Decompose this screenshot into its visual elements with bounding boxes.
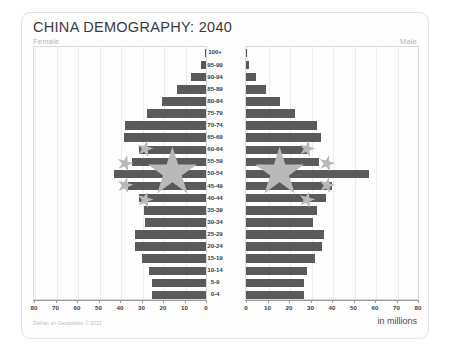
page-title: CHINA DEMOGRAPHY: 2040 — [33, 19, 232, 35]
age-label-80-84: 80-84 — [196, 97, 234, 104]
age-label-65-69: 65-69 — [196, 133, 234, 140]
bar-70-74 — [246, 121, 317, 129]
bar-45-49 — [128, 182, 206, 190]
bar-45-49 — [246, 182, 332, 190]
tick — [34, 300, 35, 303]
tick — [375, 300, 376, 303]
tick-label: 10 — [264, 304, 271, 311]
tick-label: 30 — [138, 304, 145, 311]
age-label-100plus: 100+ — [196, 48, 234, 55]
chart-card: CHINA DEMOGRAPHY: 2040 Female Male 100+9… — [21, 12, 429, 339]
bar-65-69 — [246, 133, 321, 141]
age-label-0-4: 0-4 — [196, 290, 234, 297]
age-label-15-19: 15-19 — [196, 254, 234, 261]
bar-85-89 — [246, 85, 266, 93]
female-value-axis: 80706050403020100 — [33, 300, 207, 316]
tick — [311, 300, 312, 303]
age-label-10-14: 10-14 — [196, 266, 234, 273]
age-label-25-29: 25-29 — [196, 230, 234, 237]
bar-55-59 — [132, 158, 206, 166]
tick — [246, 300, 247, 303]
female-panel — [33, 46, 207, 300]
age-label-45-49: 45-49 — [196, 182, 234, 189]
tick — [142, 300, 143, 303]
units-label: in millions — [377, 316, 417, 326]
bar-5-9 — [246, 279, 304, 287]
age-label-90-94: 90-94 — [196, 73, 234, 80]
age-label-35-39: 35-39 — [196, 206, 234, 213]
bar-25-29 — [246, 230, 324, 238]
tick-label: 60 — [372, 304, 379, 311]
tick-label: 0 — [244, 304, 247, 311]
bar-55-59 — [246, 158, 319, 166]
age-label-75-79: 75-79 — [196, 109, 234, 116]
bar-40-44 — [246, 194, 326, 202]
tick-label: 40 — [117, 304, 124, 311]
age-label-60-64: 60-64 — [196, 145, 234, 152]
bar-50-54 — [246, 170, 369, 178]
tick-label: 80 — [415, 304, 422, 311]
age-label-85-89: 85-89 — [196, 85, 234, 92]
age-label-95-99: 95-99 — [196, 61, 234, 68]
age-label-5-9: 5-9 — [196, 278, 234, 285]
tick-label: 0 — [204, 304, 207, 311]
tick — [418, 300, 419, 303]
age-label-50-54: 50-54 — [196, 169, 234, 176]
tick-label: 60 — [74, 304, 81, 311]
tick — [397, 300, 398, 303]
tick — [77, 300, 78, 303]
tick-label: 50 — [350, 304, 357, 311]
bar-0-4 — [246, 291, 304, 299]
tick — [332, 300, 333, 303]
age-label-40-44: 40-44 — [196, 194, 234, 201]
bar-70-74 — [125, 121, 206, 129]
tick-label: 40 — [329, 304, 336, 311]
bar-10-14 — [246, 267, 307, 275]
tick-label: 20 — [286, 304, 293, 311]
age-band-axis: 100+95-9990-9485-8980-8475-7970-7465-696… — [196, 46, 234, 300]
age-label-70-74: 70-74 — [196, 121, 234, 128]
bar-20-24 — [246, 242, 322, 250]
age-label-20-24: 20-24 — [196, 242, 234, 249]
bar-15-19 — [246, 254, 315, 262]
tick-label: 70 — [52, 304, 59, 311]
female-axis-label: Female — [33, 37, 59, 46]
tick — [289, 300, 290, 303]
tick-label: 10 — [181, 304, 188, 311]
tick — [163, 300, 164, 303]
tick-label: 20 — [160, 304, 167, 311]
age-label-30-34: 30-34 — [196, 218, 234, 225]
credit-text: Zeihan on Geopolitics © 2012 — [33, 320, 102, 326]
male-bars — [246, 47, 418, 299]
male-value-axis: 01020304050607080 — [245, 300, 419, 316]
bar-50-54 — [114, 170, 206, 178]
male-panel — [245, 46, 419, 300]
bar-95-99 — [246, 61, 249, 69]
bar-75-79 — [246, 109, 295, 117]
female-bars — [34, 47, 206, 299]
tick-label: 30 — [307, 304, 314, 311]
tick-label: 70 — [393, 304, 400, 311]
tick — [185, 300, 186, 303]
tick — [99, 300, 100, 303]
age-label-55-59: 55-59 — [196, 157, 234, 164]
bar-35-39 — [246, 206, 317, 214]
bar-90-94 — [246, 73, 256, 81]
bar-80-84 — [246, 97, 280, 105]
male-axis-label: Male — [400, 37, 417, 46]
bar-30-34 — [246, 218, 313, 226]
tick-label: 50 — [95, 304, 102, 311]
bar-60-64 — [246, 146, 309, 154]
tick — [206, 300, 207, 303]
tick — [268, 300, 269, 303]
tick-label: 80 — [31, 304, 38, 311]
bar-65-69 — [124, 133, 206, 141]
tick — [56, 300, 57, 303]
tick — [120, 300, 121, 303]
tick — [354, 300, 355, 303]
